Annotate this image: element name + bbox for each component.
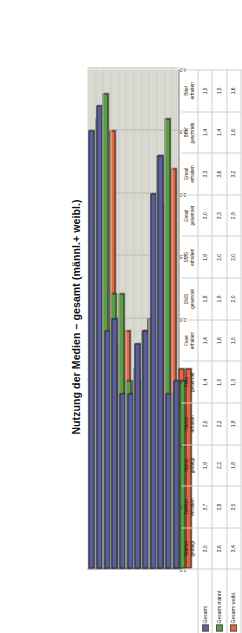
bar xyxy=(104,331,110,569)
bar xyxy=(112,318,118,568)
table-column-header-line: Email xyxy=(184,195,189,236)
bar-group xyxy=(134,69,142,568)
bar-group xyxy=(111,69,119,568)
bar xyxy=(173,381,179,569)
bar-group xyxy=(118,69,126,568)
bar-group xyxy=(88,69,96,568)
table-column-header-line: Telefon xyxy=(184,528,189,569)
table-column-header-line: Brief xyxy=(184,70,189,111)
bar-group xyxy=(157,69,165,568)
table-column-header-line: Faxe xyxy=(184,320,189,361)
bar xyxy=(165,393,171,568)
bar-group xyxy=(164,69,172,568)
table-column-header-line: Faxe xyxy=(184,361,189,402)
bar xyxy=(150,193,156,568)
table-column-header: Handygetätigt xyxy=(182,444,190,486)
table-column-header-line: Handy xyxy=(184,445,189,486)
table-column-header: Faxegesendet xyxy=(182,361,190,403)
table-column-header: Telefongetätigt xyxy=(182,527,190,569)
bar-group xyxy=(172,69,180,568)
table-column-header: Faxeerhalten xyxy=(182,319,190,361)
table-column-header: Handyerhalten xyxy=(182,403,190,445)
table-column-header-line: Email xyxy=(184,153,189,194)
table-column-header-line: Brief xyxy=(184,112,189,153)
bar xyxy=(158,156,164,569)
bar xyxy=(119,393,125,568)
table-column-header: Emailgesendet xyxy=(182,194,190,236)
bar xyxy=(135,343,141,568)
table-column-header-line: SMS xyxy=(184,278,189,319)
bar xyxy=(142,331,148,569)
bar xyxy=(89,131,95,569)
table-column-header-line: Telefon xyxy=(184,486,189,527)
plot-canvas xyxy=(88,69,180,569)
bar-group xyxy=(95,69,103,568)
table-column-header: Emailerhalten xyxy=(182,153,190,195)
table-column-header-line: Handy xyxy=(184,403,189,444)
bar-group xyxy=(141,69,149,568)
table-column-header: Briefgeschrieb. xyxy=(182,111,190,153)
table-column-header: SMSgesendet xyxy=(182,278,190,320)
data-table: TelefongetätigtTelefonerhaltenHandygetät… xyxy=(182,69,190,633)
bar-group xyxy=(126,69,134,568)
bar-group xyxy=(149,69,157,568)
chart-title: Nutzung der Medien – gesamt (männl.+ wei… xyxy=(70,0,82,633)
table-corner xyxy=(182,569,190,633)
plot-area xyxy=(88,69,180,569)
table-column-header: Telefonerhalten xyxy=(182,486,190,528)
table-column-header-line: SMS xyxy=(184,237,189,278)
bar-group xyxy=(103,69,111,568)
bar xyxy=(96,106,102,569)
gridline xyxy=(88,67,179,68)
chart-figure: Nutzung der Medien – gesamt (männl.+ wei… xyxy=(66,0,190,633)
bar xyxy=(127,393,133,568)
table-column-header: SMSerhalten xyxy=(182,236,190,278)
table-column-header: Brieferhalten xyxy=(182,70,190,112)
table-header-row: TelefongetätigtTelefonerhaltenHandygetät… xyxy=(182,70,190,633)
